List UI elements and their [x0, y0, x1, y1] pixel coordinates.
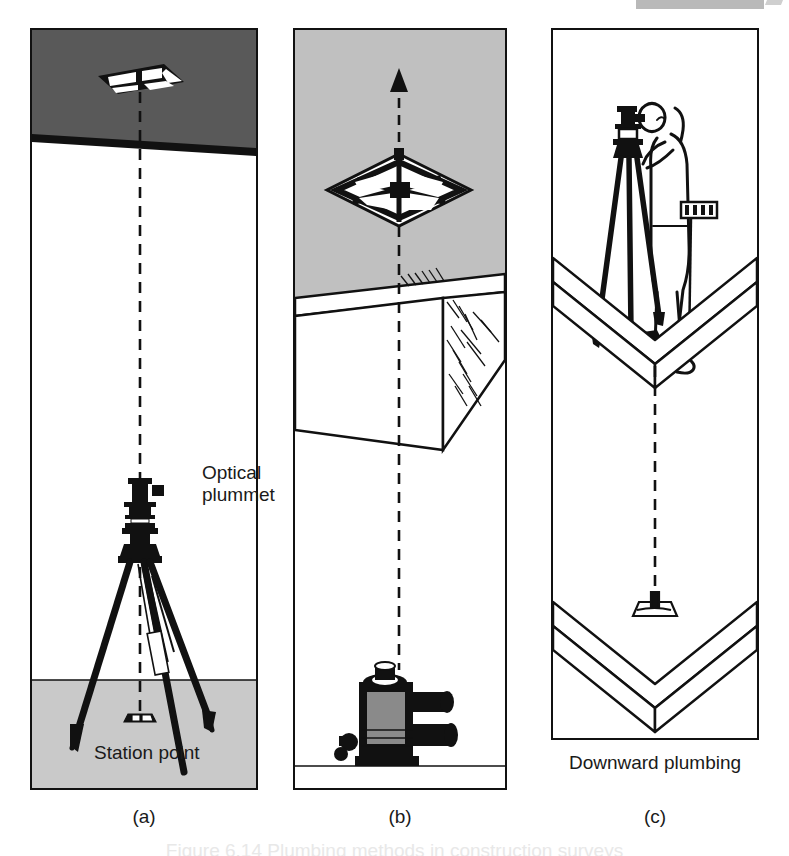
station-point-marker	[124, 714, 156, 722]
sublabel-c: (c)	[551, 806, 759, 828]
label-downward-plumbing: Downward plumbing	[551, 752, 759, 774]
ground-zone	[32, 680, 256, 788]
panel-b-graphic	[295, 30, 505, 788]
label-station-point: Station point	[94, 742, 200, 764]
scan-artifact-corner	[765, 0, 783, 5]
sublabel-a: (a)	[0, 806, 288, 828]
panel-c-graphic	[553, 30, 757, 738]
panel-c-downward-plumbing: Reference point	[551, 28, 759, 740]
label-optical-plummet: Optical plummet	[202, 462, 275, 506]
scan-artifact-bar	[636, 0, 764, 9]
figure-caption-cutoff: Figure 6.14 Plumbing methods in construc…	[0, 840, 789, 856]
figure-root: Optical plummet Station point	[0, 0, 789, 856]
panel-b-centring-device: Centring device Optical plumb line	[293, 28, 507, 790]
panel-a-graphic	[32, 30, 256, 788]
ceiling-slab	[32, 30, 256, 156]
sublabel-b: (b)	[293, 806, 507, 828]
panel-a-optical-plummet: Optical plummet Station point	[30, 28, 258, 790]
